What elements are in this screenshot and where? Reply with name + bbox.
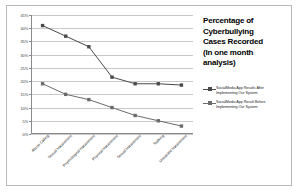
y-axis-tick-label: 0% [23, 132, 28, 137]
x-axis-tick-label: Sexual Harassment [116, 134, 142, 160]
data-point-marker [87, 98, 90, 101]
y-axis-tick-label: 40% [21, 26, 29, 31]
data-point-marker [64, 34, 67, 37]
legend-label-line: Implementing Our System [216, 105, 265, 110]
data-point-marker [110, 75, 113, 78]
x-axis-tick-label: Stalking [153, 134, 165, 146]
right-panel: Percentage ofCyberbullyingCases Recorded… [203, 16, 295, 114]
y-axis-tick-label: 35% [21, 39, 29, 44]
data-point-marker [41, 82, 44, 85]
data-point-marker [180, 83, 183, 86]
chart-title-line: Percentage of [203, 16, 295, 27]
y-axis-tick-label: 5% [23, 118, 28, 123]
y-axis-tick-label: 30% [21, 52, 29, 57]
x-axis-labels: Abuse CallingSexual HarassmentPsychologi… [31, 134, 193, 192]
chart-title: Percentage ofCyberbullyingCases Recorded… [203, 16, 295, 69]
legend-label-line: SocialMedia App Result Before [216, 100, 265, 105]
data-point-marker [41, 24, 44, 27]
legend-item[interactable]: SocialMedia App Results AfterImplementin… [203, 86, 295, 96]
x-axis-tick-label: Physical Harassment [91, 134, 118, 161]
data-point-marker [87, 45, 90, 48]
chart-title-line: Cases Recorded [203, 37, 295, 48]
legend: SocialMedia App Results AfterImplementin… [203, 86, 295, 110]
series-group [31, 15, 193, 134]
y-axis-tick-label: 20% [21, 79, 29, 84]
y-axis-tick-label: 25% [21, 65, 29, 70]
x-axis-tick-label: Abuse Calling [30, 134, 49, 153]
data-point-marker [180, 124, 183, 127]
data-point-marker [157, 82, 160, 85]
series-line [43, 84, 182, 126]
data-point-marker [133, 82, 136, 85]
legend-label: SocialMedia App Results AfterImplementin… [216, 86, 264, 96]
data-point-marker [64, 93, 67, 96]
legend-label-line: Implementing Our System [216, 91, 264, 96]
data-point-marker [157, 119, 160, 122]
chart-title-line: (In one month [203, 48, 295, 59]
legend-marker-icon [203, 101, 216, 107]
data-point-marker [110, 106, 113, 109]
x-axis-tick-label: Sexual Harassment [47, 134, 73, 160]
legend-marker-icon [203, 87, 216, 93]
y-axis-tick-label: 15% [21, 92, 29, 97]
legend-label-line: SocialMedia App Results After [216, 86, 264, 91]
chart-frame: 45%40%35%30%25%20%15%10%5%0% Abuse Calli… [6, 5, 292, 186]
data-point-marker [133, 114, 136, 117]
legend-item[interactable]: SocialMedia App Result BeforeImplementin… [203, 100, 295, 110]
plot-area: 45%40%35%30%25%20%15%10%5%0% [31, 15, 193, 134]
y-axis-tick-label: 10% [21, 105, 29, 110]
chart-title-line: analysis) [203, 58, 295, 69]
y-axis-tick-label: 45% [21, 13, 29, 18]
chart-title-line: Cyberbullying [203, 27, 295, 38]
legend-label: SocialMedia App Result BeforeImplementin… [216, 100, 265, 110]
